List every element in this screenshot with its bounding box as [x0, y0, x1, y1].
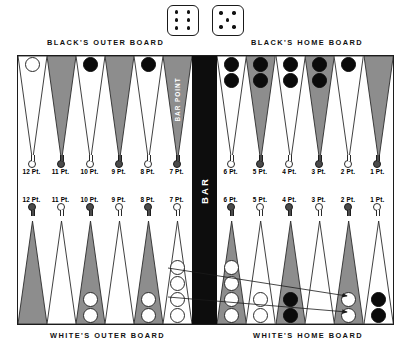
- point-blacks-home-board-2[interactable]: [334, 56, 363, 161]
- point-marker-icon: [285, 203, 293, 211]
- point-whites-home-board-5[interactable]: [246, 221, 275, 324]
- point-triangle: [18, 56, 47, 161]
- point-whites-outer-board-10[interactable]: [76, 221, 105, 324]
- point-label-cell-11: 11 Pt.: [46, 196, 75, 220]
- point-label-cell-5: 5 Pt.: [245, 152, 274, 176]
- point-marker-icon: [57, 160, 65, 168]
- point-blacks-outer-board-8[interactable]: [134, 56, 163, 161]
- point-marker-icon: [344, 160, 352, 168]
- point-number-label: 11 Pt.: [52, 168, 70, 175]
- point-marker-icon: [373, 203, 381, 211]
- point-blacks-home-board-6[interactable]: [217, 56, 246, 161]
- point-triangle: [305, 56, 334, 161]
- caption-blacks-outer-board: BLACK'S OUTER BOARD: [47, 38, 164, 47]
- point-whites-home-board-3[interactable]: [305, 221, 334, 324]
- dice-tray: [0, 4, 410, 36]
- point-number-label: 1 Pt.: [370, 196, 384, 203]
- die-pip: [175, 10, 178, 13]
- point-number-label: 10 Pt.: [81, 168, 99, 175]
- point-marker-icon: [173, 203, 181, 211]
- point-triangle: [134, 56, 163, 161]
- point-blacks-outer-board-11[interactable]: [47, 56, 76, 161]
- point-labels-bottom-left: 12 Pt.11 Pt.10 Pt.9 Pt.8 Pt.7 Pt.: [17, 196, 191, 220]
- point-triangle: [364, 221, 393, 324]
- point-whites-outer-board-12[interactable]: [18, 221, 47, 324]
- point-marker-icon: [256, 160, 264, 168]
- point-whites-outer-board-11[interactable]: [47, 221, 76, 324]
- point-triangle: [105, 56, 134, 161]
- point-triangle: [18, 221, 47, 324]
- point-whites-outer-board-8[interactable]: [134, 221, 163, 324]
- point-triangle: [47, 56, 76, 161]
- caption-whites-home-board: WHITE'S HOME BOARD: [253, 331, 363, 340]
- point-number-label: 3 Pt.: [312, 196, 326, 203]
- point-triangle: [163, 56, 192, 161]
- point-label-cell-5: 5 Pt.: [245, 196, 274, 220]
- point-number-label: 4 Pt.: [282, 168, 296, 175]
- point-number-label: 3 Pt.: [312, 168, 326, 175]
- point-whites-outer-board-7[interactable]: [163, 221, 192, 324]
- quadrant-blacks-home-board: [217, 56, 393, 161]
- point-marker-icon: [57, 203, 65, 211]
- point-number-label: 7 Pt.: [169, 196, 183, 203]
- point-number-label: 2 Pt.: [341, 168, 355, 175]
- point-whites-outer-board-9[interactable]: [105, 221, 134, 324]
- die-pip: [226, 18, 229, 21]
- point-number-label: 4 Pt.: [282, 196, 296, 203]
- die-pip: [187, 18, 190, 21]
- point-label-cell-2: 2 Pt.: [333, 152, 362, 176]
- point-blacks-outer-board-7[interactable]: BAR POINT: [163, 56, 192, 161]
- point-marker-icon: [285, 160, 293, 168]
- point-marker-icon: [115, 203, 123, 211]
- point-label-cell-8: 8 Pt.: [133, 196, 162, 220]
- point-label-cell-10: 10 Pt.: [75, 152, 104, 176]
- point-blacks-outer-board-9[interactable]: [105, 56, 134, 161]
- point-triangle: [305, 221, 334, 324]
- point-marker-icon: [315, 203, 323, 211]
- point-number-label: 9 Pt.: [111, 168, 125, 175]
- die-pip: [187, 26, 190, 29]
- bar-label: BAR: [199, 176, 210, 203]
- point-number-label: 12 Pt.: [23, 196, 41, 203]
- point-labels-bottom-right: 6 Pt.5 Pt.4 Pt.3 Pt.2 Pt.1 Pt.: [216, 196, 392, 220]
- point-label-cell-1: 1 Pt.: [363, 152, 392, 176]
- point-triangle: [364, 56, 393, 161]
- point-blacks-outer-board-10[interactable]: [76, 56, 105, 161]
- point-blacks-home-board-4[interactable]: [276, 56, 305, 161]
- point-marker-icon: [256, 203, 264, 211]
- point-number-label: 2 Pt.: [341, 196, 355, 203]
- point-marker-icon: [28, 203, 36, 211]
- die-pip: [175, 26, 178, 29]
- point-whites-home-board-4[interactable]: [276, 221, 305, 324]
- point-labels-top-left: 12 Pt.11 Pt.10 Pt.9 Pt.8 Pt.7 Pt.: [17, 152, 191, 176]
- quadrant-whites-outer-board: [18, 221, 192, 324]
- backgammon-board: BAR POINT BAR: [17, 55, 394, 325]
- point-label-cell-4: 4 Pt.: [275, 152, 304, 176]
- point-triangle: [276, 56, 305, 161]
- point-number-label: 5 Pt.: [253, 196, 267, 203]
- point-number-label: 9 Pt.: [111, 196, 125, 203]
- point-marker-icon: [144, 203, 152, 211]
- point-marker-icon: [227, 160, 235, 168]
- point-labels-top-right: 6 Pt.5 Pt.4 Pt.3 Pt.2 Pt.1 Pt.: [216, 152, 392, 176]
- point-triangle: [334, 56, 363, 161]
- point-label-cell-9: 9 Pt.: [104, 196, 133, 220]
- point-number-label: 10 Pt.: [81, 196, 99, 203]
- die-pip: [232, 11, 235, 14]
- point-whites-home-board-6[interactable]: [217, 221, 246, 324]
- point-blacks-home-board-5[interactable]: [246, 56, 275, 161]
- point-blacks-outer-board-12[interactable]: [18, 56, 47, 161]
- point-label-cell-12: 12 Pt.: [17, 152, 46, 176]
- point-whites-home-board-1[interactable]: [364, 221, 393, 324]
- point-label-cell-6: 6 Pt.: [216, 152, 245, 176]
- point-whites-home-board-2[interactable]: [334, 221, 363, 324]
- point-label-cell-7: 7 Pt.: [162, 152, 191, 176]
- point-blacks-home-board-1[interactable]: [364, 56, 393, 161]
- point-label-cell-3: 3 Pt.: [304, 196, 333, 220]
- point-label-cell-1: 1 Pt.: [363, 196, 392, 220]
- point-triangle: [163, 221, 192, 324]
- point-marker-icon: [86, 203, 94, 211]
- point-blacks-home-board-3[interactable]: [305, 56, 334, 161]
- point-number-label: 1 Pt.: [370, 168, 384, 175]
- point-marker-icon: [144, 160, 152, 168]
